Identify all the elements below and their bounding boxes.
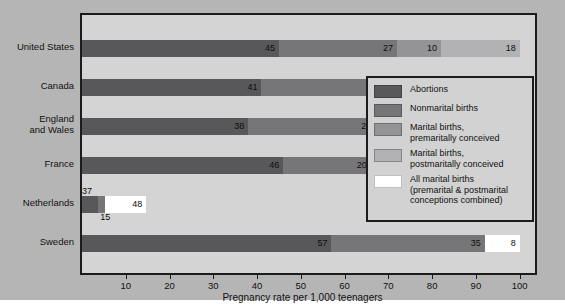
- legend-label-line: Marital births,: [410, 148, 504, 159]
- x-axis-tick: [345, 273, 346, 279]
- bar-row: 45271018: [82, 40, 520, 57]
- x-axis-tick: [170, 273, 171, 279]
- category-label-sweden: Sweden: [0, 236, 74, 247]
- legend-swatch: [374, 123, 402, 136]
- bar-segment-value: 10: [427, 40, 441, 57]
- x-axis-tick-label: 10: [120, 280, 131, 291]
- legend-swatch: [374, 104, 402, 117]
- legend-swatch: [374, 175, 402, 188]
- legend-label-line: conceptions combined): [410, 195, 508, 206]
- bar-segment-value: 38: [234, 118, 248, 135]
- legend-item: Nonmarital births: [374, 103, 526, 117]
- x-axis-tick-label: 70: [383, 280, 394, 291]
- bar-row: 371548: [82, 196, 146, 213]
- legend-label: Marital births,postmaritally conceived: [410, 148, 504, 169]
- x-axis-tick-label: 60: [339, 280, 350, 291]
- bar-segment-value: 8: [511, 235, 520, 252]
- category-axis-labels: United StatesCanadaEnglandand WalesFranc…: [0, 13, 78, 275]
- x-axis-tick-label: 20: [164, 280, 175, 291]
- legend-item: Marital births,postmaritally conceived: [374, 148, 526, 169]
- legend-label-line: Marital births,: [410, 122, 500, 133]
- legend-label-line: All marital births: [410, 174, 508, 185]
- bar-segment-value: 46: [269, 157, 283, 174]
- category-label-line: Sweden: [0, 236, 74, 247]
- bar-segment: 10: [397, 40, 441, 57]
- legend-label: Nonmarital births: [410, 103, 478, 114]
- legend-label-line: Abortions: [410, 84, 448, 95]
- category-label-france: France: [0, 158, 74, 169]
- bar-segment: 48: [105, 196, 147, 213]
- bar-segment: 38: [82, 118, 248, 135]
- bar-segment-value: 41: [247, 79, 261, 96]
- x-axis-tick: [257, 273, 258, 279]
- legend-swatch: [374, 85, 402, 98]
- legend-label: All marital births(premarital & postmari…: [410, 174, 508, 206]
- bar-row: 57358: [82, 235, 520, 252]
- bar-segment-value: 45: [265, 40, 279, 57]
- legend-item: Marital births,premaritally conceived: [374, 122, 526, 143]
- bar-segment: 35: [331, 235, 484, 252]
- category-label-line: Netherlands: [0, 197, 74, 208]
- legend-label-line: (premarital & postmarital: [410, 185, 508, 196]
- bar-segment: 20: [283, 157, 371, 174]
- chart-root: United StatesCanadaEnglandand WalesFranc…: [0, 0, 565, 308]
- bar-segment: 57: [82, 235, 331, 252]
- legend-label-line: postmaritally conceived: [410, 159, 504, 170]
- x-axis-tick-label: 80: [427, 280, 438, 291]
- bar-segment-value: 27: [383, 40, 397, 57]
- category-label-united-states: United States: [0, 41, 74, 52]
- bar-segment-value: 57: [317, 235, 331, 252]
- bar-segment-value: 18: [506, 40, 520, 57]
- legend-label-line: premaritally conceived: [410, 133, 500, 144]
- bar-segment: 37: [82, 196, 98, 213]
- category-label-canada: Canada: [0, 80, 74, 91]
- x-axis-tick-label: 40: [252, 280, 263, 291]
- category-label-line: England: [0, 113, 74, 124]
- x-axis-tick: [126, 273, 127, 279]
- bar-segment: 41: [82, 79, 261, 96]
- x-axis-tick: [388, 273, 389, 279]
- x-axis-tick-label: 90: [471, 280, 482, 291]
- x-axis-tick: [432, 273, 433, 279]
- legend-label-line: Nonmarital births: [410, 103, 478, 114]
- legend-label: Marital births,premaritally conceived: [410, 122, 500, 143]
- legend-item: All marital births(premarital & postmari…: [374, 174, 526, 206]
- bar-segment-value: 37: [82, 183, 96, 200]
- category-label-line: and Wales: [0, 124, 74, 135]
- category-label-england-and-wales: Englandand Wales: [0, 113, 74, 135]
- bar-segment-value: 35: [471, 235, 485, 252]
- category-label-line: France: [0, 158, 74, 169]
- legend-label: Abortions: [410, 84, 448, 95]
- chart-legend: AbortionsNonmarital birthsMarital births…: [366, 76, 534, 222]
- x-axis-tick: [213, 273, 214, 279]
- category-label-line: Canada: [0, 80, 74, 91]
- x-axis-tick: [301, 273, 302, 279]
- x-axis-tick-label: 50: [296, 280, 307, 291]
- x-axis-tick: [520, 273, 521, 279]
- bar-segment: 45: [82, 40, 279, 57]
- legend-swatch: [374, 149, 402, 162]
- bar-segment: 18: [441, 40, 520, 57]
- x-axis-tick: [476, 273, 477, 279]
- category-label-line: United States: [0, 41, 74, 52]
- bar-segment-value: 48: [132, 196, 146, 213]
- bar-segment: 8: [485, 235, 520, 252]
- bar-segment: 29: [248, 118, 375, 135]
- bar-segment: 46: [82, 157, 283, 174]
- x-axis-title: Pregnancy rate per 1,000 teenagers: [0, 292, 565, 303]
- x-axis-tick-label: 30: [208, 280, 219, 291]
- legend-item: Abortions: [374, 84, 526, 98]
- bar-segment: 27: [279, 40, 397, 57]
- x-axis-title-text: Pregnancy rate per 1,000 teenagers: [222, 292, 382, 303]
- x-axis-tick-label: 100: [512, 280, 528, 291]
- x-axis-tick-labels: 102030405060708090100: [82, 280, 537, 292]
- category-label-netherlands: Netherlands: [0, 197, 74, 208]
